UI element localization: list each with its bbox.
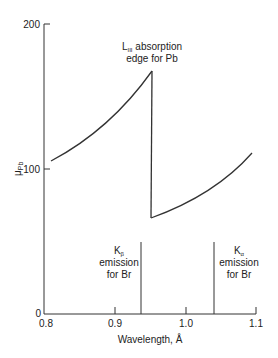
- edge-annotation: LIII absorption edge for Pb: [122, 41, 182, 64]
- kbeta-annotation: Kβ emission for Br: [99, 245, 138, 280]
- x-tick-label-0.9: 0.9: [108, 318, 122, 329]
- svg-text:LIII absorption: LIII absorption: [122, 41, 182, 53]
- svg-text:edge for Pb: edge for Pb: [126, 53, 178, 64]
- svg-text:for Br: for Br: [227, 269, 252, 280]
- mu-curve-post-edge: [151, 153, 252, 218]
- mu-curve-pre-edge: [51, 71, 152, 161]
- absorption-edge-drop: [151, 71, 152, 218]
- svg-text:emission: emission: [219, 257, 258, 268]
- x-tick-label-1.1: 1.1: [249, 318, 263, 329]
- svg-text:Kα: Kα: [234, 245, 245, 257]
- svg-text:emission: emission: [99, 257, 138, 268]
- y-tick-label-100: 100: [23, 164, 40, 175]
- y-axis-label: μPb: [12, 162, 24, 176]
- chart: 200 100 0 0.8 0.9 1.0 1.1 Wavelength, Å …: [0, 0, 278, 358]
- y-tick-label-200: 200: [23, 19, 40, 30]
- svg-text:for Br: for Br: [107, 269, 132, 280]
- x-tick-label-0.8: 0.8: [39, 318, 53, 329]
- x-tick-label-1.0: 1.0: [179, 318, 193, 329]
- x-axis-label: Wavelength, Å: [118, 333, 183, 345]
- svg-text:μPb: μPb: [12, 162, 24, 176]
- kalpha-annotation: Kα emission for Br: [219, 245, 258, 280]
- svg-text:Kβ: Kβ: [114, 245, 125, 257]
